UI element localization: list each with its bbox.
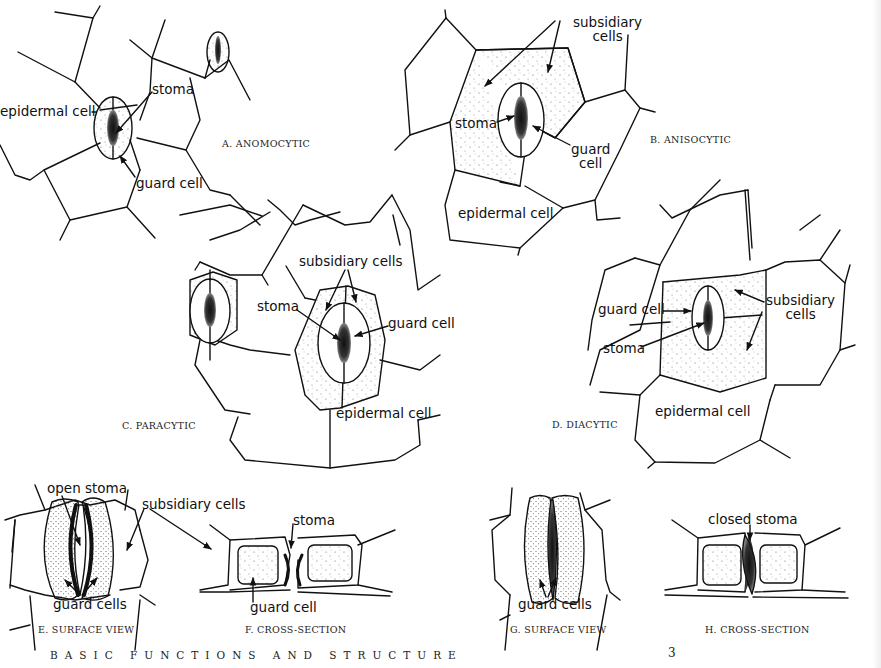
stomata-illustration xyxy=(0,0,881,668)
label-d-subsidiary-line2: cells xyxy=(785,306,815,322)
label-f-guard-cell: guard cell xyxy=(250,600,317,614)
caption-c-paracytic: C. PARACYTIC xyxy=(122,420,196,431)
caption-b-anisocytic: B. ANISOCYTIC xyxy=(650,134,731,145)
caption-d-diacytic: D. DIACYTIC xyxy=(552,419,618,430)
label-c-subsidiary-cells: subsidiary cells xyxy=(299,254,403,268)
panel-a-anomocytic xyxy=(0,6,340,240)
caption-f-cross-section: F. CROSS-SECTION xyxy=(245,624,346,635)
label-c-guard-cell: guard cell xyxy=(388,316,455,330)
label-e-guard-cells: guard cells xyxy=(53,597,127,611)
label-b-stoma: stoma xyxy=(455,116,497,130)
label-d-guard-cell: guard cell xyxy=(598,302,665,316)
panel-d-diacytic xyxy=(588,180,855,468)
caption-h-cross-section: H. CROSS-SECTION xyxy=(705,624,810,635)
label-c-epidermal-cell: epidermal cell xyxy=(336,406,432,420)
label-d-epidermal-cell: epidermal cell xyxy=(655,404,751,418)
label-c-stoma: stoma xyxy=(257,299,299,313)
panel-h-cross-section xyxy=(665,520,848,598)
caption-g-surface-view: G. SURFACE VIEW xyxy=(510,624,607,635)
label-g-guard-cells: guard cells xyxy=(518,597,592,611)
label-b-subsidiary-line2: cells xyxy=(592,28,622,44)
label-b-epidermal-cell: epidermal cell xyxy=(458,206,554,220)
label-a-guard-cell: guard cell xyxy=(136,176,203,190)
label-b-guard-line2: cell xyxy=(579,155,602,171)
page-edge-shadow xyxy=(873,0,881,668)
label-b-subsidiary-cells: subsidiary cells xyxy=(573,15,642,43)
panel-f-cross-section xyxy=(200,524,395,602)
label-d-stoma: stoma xyxy=(603,341,645,355)
label-h-closed-stoma: closed stoma xyxy=(708,512,798,526)
label-a-epidermal-cell: epidermal cell xyxy=(0,104,96,118)
footer-title: BASIC FUNCTIONS AND STRUCTURE xyxy=(50,649,463,661)
panel-c-paracytic xyxy=(180,195,440,468)
page-number: 3 xyxy=(668,646,676,660)
label-f-stoma: stoma xyxy=(293,513,335,527)
caption-a-anomocytic: A. ANOMOCYTIC xyxy=(222,138,310,149)
label-d-subsidiary-cells: subsidiary cells xyxy=(766,293,835,321)
label-e-subsidiary-cells: subsidiary cells xyxy=(142,497,246,511)
caption-e-surface-view: E. SURFACE VIEW xyxy=(38,624,134,635)
label-b-guard-cell: guard cell xyxy=(571,142,610,170)
label-e-open-stoma: open stoma xyxy=(47,481,127,495)
label-a-stoma: stoma xyxy=(152,82,194,96)
